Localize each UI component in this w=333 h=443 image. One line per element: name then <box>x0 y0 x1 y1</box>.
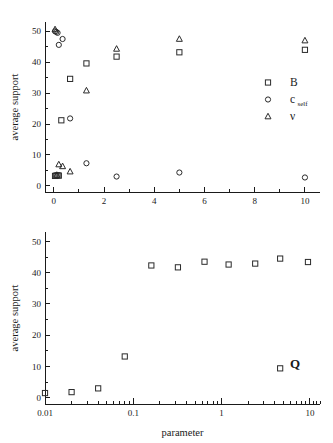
data-point <box>68 116 73 121</box>
top-x-ticklabel: 0 <box>52 196 57 206</box>
legend-item-ν[interactable]: ν <box>265 110 295 122</box>
bottom-y-ticklabel: 50 <box>32 237 42 247</box>
top-legend: Bcselfν <box>265 76 308 122</box>
bottom-x-ticklabel: 10 <box>305 408 315 418</box>
legend-label: c <box>290 93 295 105</box>
bottom-y-ticklabel: 20 <box>32 330 42 340</box>
data-point <box>69 390 74 395</box>
data-point <box>175 265 180 270</box>
data-point <box>302 175 307 180</box>
top-y-ticklabel: 10 <box>32 150 42 160</box>
data-point <box>114 46 120 52</box>
data-point <box>177 50 182 55</box>
data-point <box>305 259 310 264</box>
data-point <box>122 354 127 359</box>
bottom-y-ticklabel: 10 <box>32 362 42 372</box>
data-point <box>83 87 89 93</box>
bottom-y-axis-title: average support <box>9 285 20 352</box>
legend-marker-circle <box>265 97 270 102</box>
data-point <box>302 47 307 52</box>
legend-item-cself[interactable]: cself <box>265 93 308 108</box>
top-series-c-self <box>52 29 307 180</box>
bottom-y-ticklabel: 30 <box>32 299 42 309</box>
data-point <box>302 37 308 43</box>
data-point <box>176 36 182 42</box>
data-point <box>67 168 73 174</box>
bottom-annotation-Q: Q <box>290 356 300 371</box>
bottom-x-axis-title: parameter <box>162 427 204 438</box>
data-point <box>149 263 154 268</box>
data-point <box>253 261 258 266</box>
legend-marker-square <box>265 80 270 85</box>
data-point <box>84 61 89 66</box>
legend-marker-triangle <box>265 113 271 119</box>
scatter-plot-figure: 024681001020304050average supportBcselfν… <box>0 0 333 443</box>
data-point <box>177 170 182 175</box>
top-x-ticklabel: 8 <box>252 196 257 206</box>
data-point <box>114 54 119 59</box>
data-point <box>278 256 283 261</box>
annotation-label: Q <box>290 356 300 371</box>
top-x-ticklabel: 4 <box>152 196 157 206</box>
data-point <box>202 259 207 264</box>
data-point <box>96 386 101 391</box>
top-panel: 024681001020304050average supportBcselfν <box>9 22 320 206</box>
legend-item-B[interactable]: B <box>265 76 298 88</box>
bottom-y-ticklabel: 0 <box>37 393 42 403</box>
bottom-y-ticklabel: 40 <box>32 268 42 278</box>
top-x-ticklabel: 6 <box>202 196 207 206</box>
top-x-ticklabel: 10 <box>300 196 310 206</box>
top-y-axis-title: average support <box>9 74 20 141</box>
data-point <box>60 36 65 41</box>
data-point <box>114 174 119 179</box>
data-point <box>84 161 89 166</box>
top-series-B <box>52 47 307 178</box>
data-point <box>226 262 231 267</box>
bottom-x-ticklabel: 0.1 <box>128 408 139 418</box>
bottom-x-ticklabel: 0.01 <box>37 408 53 418</box>
data-point <box>68 76 73 81</box>
legend-label: B <box>290 76 298 88</box>
bottom-x-ticklabel: 1 <box>219 408 224 418</box>
legend-label-subscript: self <box>298 100 309 108</box>
top-x-ticklabel: 2 <box>102 196 107 206</box>
bottom-series-Q <box>42 256 310 396</box>
top-y-ticklabel: 40 <box>32 57 42 67</box>
top-y-ticklabel: 0 <box>37 181 42 191</box>
legend-label: ν <box>290 110 295 122</box>
data-point <box>59 118 64 123</box>
figure-container: 024681001020304050average supportBcselfν… <box>0 0 333 443</box>
top-y-ticklabel: 20 <box>32 119 42 129</box>
top-y-ticklabel: 30 <box>32 88 42 98</box>
top-y-ticklabel: 50 <box>32 26 42 36</box>
data-point <box>56 42 61 47</box>
data-point <box>278 366 283 371</box>
bottom-panel: 0.010.111001020304050average supportpara… <box>9 232 320 438</box>
